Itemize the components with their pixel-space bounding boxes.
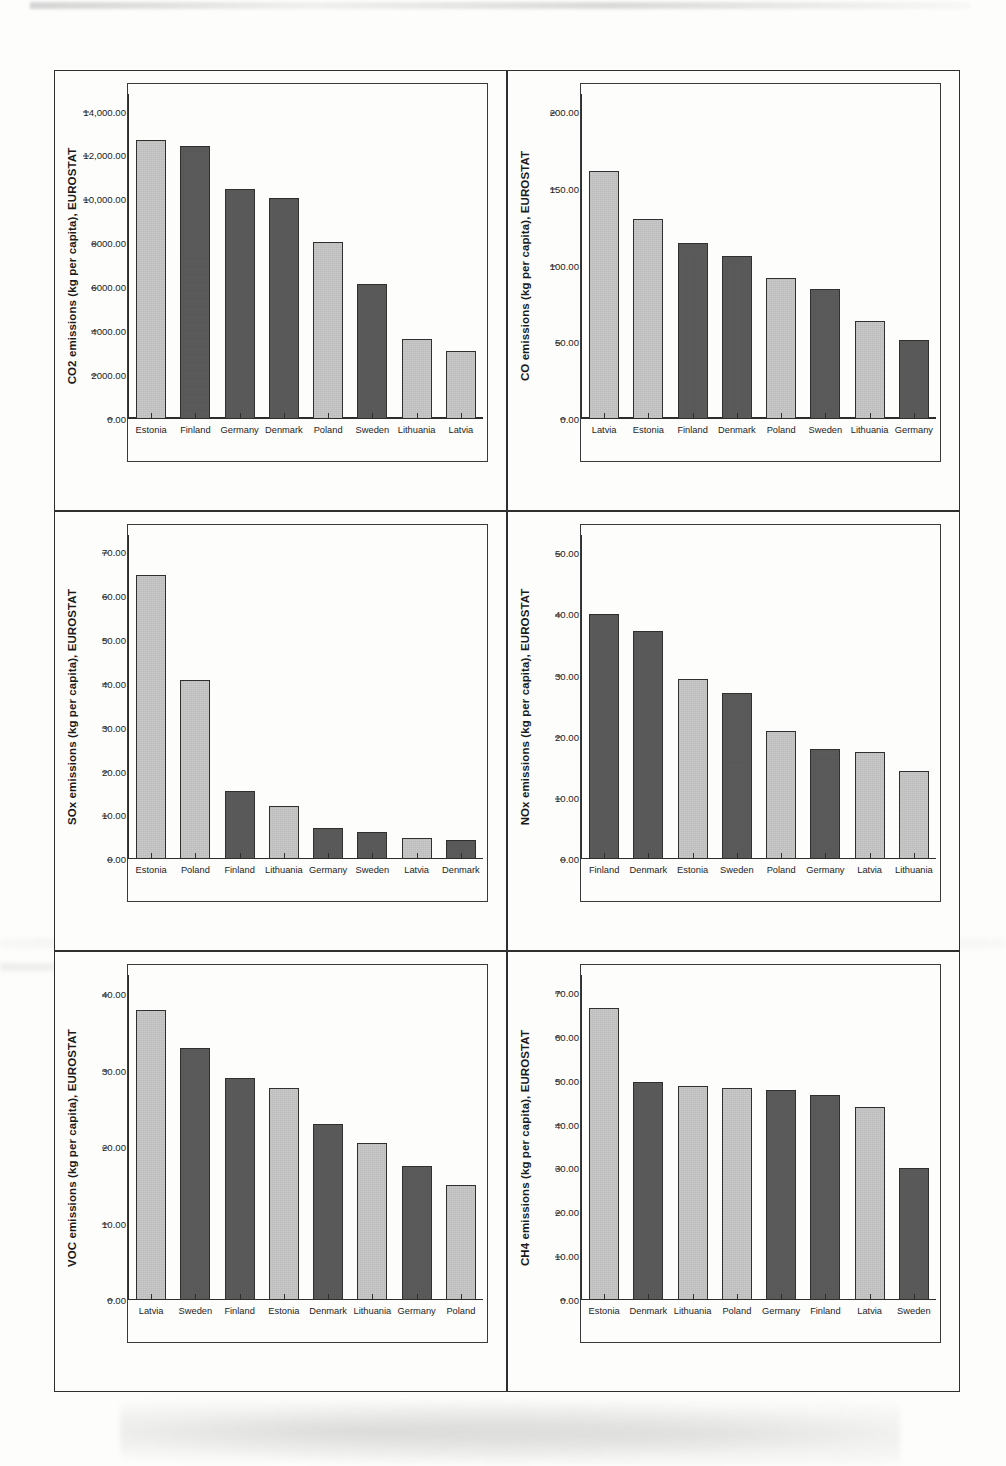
x-axis-category: Sweden [350, 861, 394, 883]
x-tick-mark [195, 413, 196, 419]
x-axis-labels-ch4: EstoniaDenmarkLithuaniaPolandGermanyFinl… [582, 1302, 936, 1324]
bar-voc-denmark[interactable] [313, 1124, 343, 1300]
x-tick-mark [604, 853, 605, 859]
x-axis-category: Denmark [262, 421, 306, 443]
x-axis-category: Lithuania [395, 421, 439, 443]
y-tick-mark [555, 798, 561, 799]
x-axis-category: Denmark [626, 1302, 670, 1324]
bar-co2-finland[interactable] [180, 146, 210, 419]
y-tick: 30.00 [555, 1163, 581, 1174]
bar-voc-estonia[interactable] [269, 1088, 299, 1300]
y-tick: 40.00 [555, 609, 581, 620]
bar-ch4-finland[interactable] [810, 1095, 840, 1300]
x-axis-category: Latvia [395, 861, 439, 883]
bar-co-latvia[interactable] [589, 171, 619, 418]
x-axis-category: Lithuania [892, 861, 936, 883]
axes-co: 0.0050.00100.00150.00200.00LatviaEstonia… [581, 84, 940, 461]
y-tick: 2000.00 [91, 369, 128, 380]
y-axis-title-nox: NOx emissions (kg per capita), EUROSTAT [514, 512, 536, 903]
y-tick: 20.00 [555, 1207, 581, 1218]
bar-slot [350, 975, 394, 1300]
x-tick-label: Germany [398, 1306, 436, 1316]
y-axis-title-text: CO emissions (kg per capita), EUROSTAT [519, 151, 531, 381]
bar-ch4-sweden[interactable] [899, 1168, 929, 1300]
bar-voc-poland[interactable] [446, 1185, 476, 1300]
y-tick: 20.00 [102, 1142, 128, 1153]
y-axis-title-co2: CO2 emissions (kg per capita), EUROSTAT [61, 71, 83, 462]
x-axis-category: Poland [173, 861, 217, 883]
bar-slot [262, 975, 306, 1300]
x-tick-mark [328, 1294, 329, 1300]
bar-nox-denmark[interactable] [633, 631, 663, 859]
y-tick: 0.00 [560, 1294, 581, 1305]
bar-co-poland[interactable] [766, 278, 796, 419]
bar-co2-sweden[interactable] [357, 284, 387, 418]
bar-co2-poland[interactable] [313, 242, 343, 419]
bar-ch4-lithuania[interactable] [678, 1086, 708, 1300]
y-tick: 0.00 [107, 413, 128, 424]
bar-nox-finland[interactable] [589, 614, 619, 860]
x-tick-label: Poland [767, 425, 796, 435]
bar-co-finland[interactable] [678, 243, 708, 419]
y-tick: 40.00 [102, 678, 128, 689]
bar-slot [848, 535, 892, 860]
y-tick-mark [550, 189, 556, 190]
bar-slot [350, 94, 394, 419]
x-tick-mark [417, 413, 418, 419]
bar-co-germany[interactable] [899, 340, 929, 419]
x-tick-label: Estonia [136, 865, 167, 875]
y-tick: 12,000.00 [83, 150, 128, 161]
y-tick-mark [91, 243, 97, 244]
bar-co-sweden[interactable] [810, 289, 840, 419]
bar-voc-sweden[interactable] [180, 1048, 210, 1300]
bar-voc-germany[interactable] [402, 1166, 432, 1300]
bar-slot [129, 975, 173, 1300]
x-tick-mark [604, 413, 605, 419]
y-tick: 60.00 [102, 591, 128, 602]
bar-sox-finland[interactable] [225, 791, 255, 859]
bar-ch4-poland[interactable] [722, 1088, 752, 1300]
bar-voc-finland[interactable] [225, 1078, 255, 1300]
bar-nox-germany[interactable] [810, 749, 840, 859]
bar-sox-poland[interactable] [180, 680, 210, 859]
x-axis-category: Latvia [582, 421, 626, 443]
bar-nox-lithuania[interactable] [899, 771, 929, 860]
bar-slot [395, 975, 439, 1300]
bar-co2-denmark[interactable] [269, 198, 299, 419]
x-tick-label: Estonia [268, 1306, 299, 1316]
bar-ch4-latvia[interactable] [855, 1107, 885, 1300]
bar-nox-poland[interactable] [766, 731, 796, 860]
scan-artifact-bottom [120, 1396, 900, 1466]
x-tick-label: Germany [309, 865, 347, 875]
bar-nox-estonia[interactable] [678, 679, 708, 860]
bar-co2-lithuania[interactable] [402, 339, 432, 418]
x-tick-label: Germany [806, 865, 844, 875]
x-tick-mark [284, 853, 285, 859]
bar-voc-latvia[interactable] [136, 1010, 166, 1300]
x-tick-mark [737, 413, 738, 419]
x-tick-label: Estonia [136, 425, 167, 435]
y-tick: 30.00 [102, 1065, 128, 1076]
bar-slot [803, 535, 847, 860]
y-tick-label: 14,000.00 [83, 106, 128, 117]
bar-ch4-germany[interactable] [766, 1090, 796, 1300]
bar-nox-sweden[interactable] [722, 693, 752, 860]
bar-co2-latvia[interactable] [446, 351, 476, 419]
bar-sox-lithuania[interactable] [269, 806, 299, 859]
bar-ch4-denmark[interactable] [633, 1082, 663, 1300]
x-axis-category: Latvia [848, 861, 892, 883]
plot-area-co [582, 94, 936, 419]
x-tick-mark [195, 1294, 196, 1300]
bar-co-denmark[interactable] [722, 256, 752, 419]
bar-sox-estonia[interactable] [136, 575, 166, 859]
bar-co2-estonia[interactable] [136, 140, 166, 419]
bar-co-lithuania[interactable] [855, 321, 885, 418]
y-tick-mark [555, 342, 561, 343]
bar-nox-latvia[interactable] [855, 752, 885, 859]
bar-voc-lithuania[interactable] [357, 1143, 387, 1300]
x-axis-category: Poland [759, 421, 803, 443]
bar-co-estonia[interactable] [633, 219, 663, 419]
x-tick-label: Denmark [442, 865, 480, 875]
bar-co2-germany[interactable] [225, 189, 255, 418]
bar-ch4-estonia[interactable] [589, 1008, 619, 1300]
